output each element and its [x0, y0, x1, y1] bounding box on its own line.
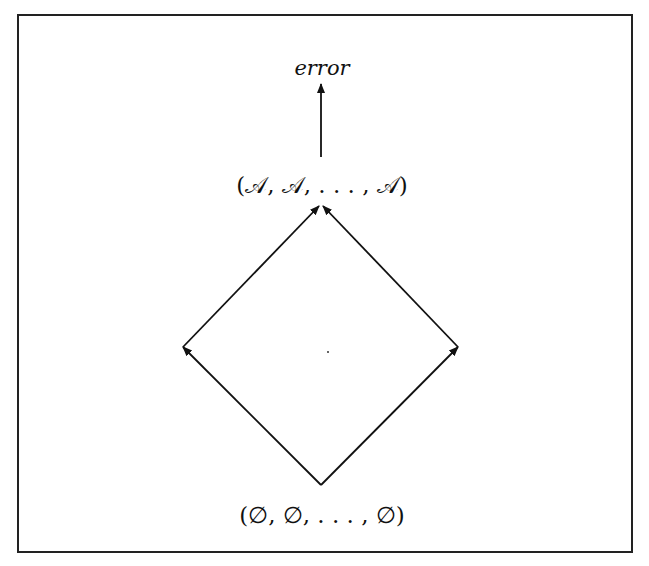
arrow-bottom-to-left	[183, 347, 321, 485]
arrow-right-to-top	[323, 206, 458, 347]
node-top-tuple: (𝒜, 𝒜, . . . , 𝒜)	[236, 172, 408, 199]
node-bottom-tuple: (∅, ∅, . . . , ∅)	[239, 502, 405, 528]
arrow-left-to-top	[183, 206, 319, 347]
node-error: error	[294, 56, 349, 80]
arrow-bottom-to-right	[321, 347, 458, 485]
lattice-arrows	[0, 0, 649, 566]
center-dot	[327, 351, 329, 353]
